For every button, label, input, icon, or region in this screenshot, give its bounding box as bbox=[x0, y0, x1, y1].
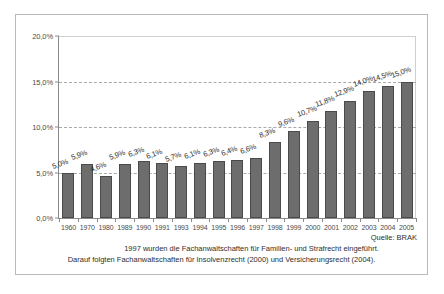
source-label: Quelle: BRAK bbox=[26, 233, 417, 244]
x-tick-label: 1980 bbox=[98, 224, 113, 231]
bar[interactable] bbox=[62, 173, 74, 219]
bar-slot: 14,0%2003 bbox=[360, 36, 379, 218]
x-tick-mark bbox=[397, 218, 398, 222]
bar-slot: 5,9%1989 bbox=[115, 36, 134, 218]
x-tick-mark bbox=[303, 218, 304, 222]
x-tick-mark bbox=[360, 218, 361, 222]
bar[interactable] bbox=[382, 86, 394, 218]
x-tick-label: 1993 bbox=[174, 224, 189, 231]
x-tick-label: 1999 bbox=[286, 224, 301, 231]
bar[interactable] bbox=[138, 161, 150, 218]
bar[interactable] bbox=[231, 160, 243, 218]
x-tick-mark bbox=[115, 218, 116, 222]
bar-slot: 6,3%1995 bbox=[209, 36, 228, 218]
x-tick-label: 1994 bbox=[192, 224, 207, 231]
x-tick-label: 1989 bbox=[117, 224, 132, 231]
bar[interactable] bbox=[325, 111, 337, 218]
x-tick-label: 1960 bbox=[61, 224, 76, 231]
bar-slot: 14,5%2004 bbox=[378, 36, 397, 218]
x-tick-mark bbox=[153, 218, 154, 222]
y-tick-label: 20,0% bbox=[32, 32, 53, 41]
x-tick-mark bbox=[134, 218, 135, 222]
bar-slot: 9,6%1999 bbox=[284, 36, 303, 218]
y-tick-label: 10,0% bbox=[32, 123, 53, 132]
x-tick-mark bbox=[266, 218, 267, 222]
bar[interactable] bbox=[194, 163, 206, 219]
footnote-line-2: Darauf folgten Fachanwaltschaften für In… bbox=[26, 255, 417, 266]
bar-series: 5,0%19605,9%19704,6%19805,9%19896,3%1990… bbox=[59, 36, 416, 218]
x-tick-label: 2005 bbox=[399, 224, 414, 231]
bar[interactable] bbox=[156, 163, 168, 219]
x-tick-label: 2001 bbox=[324, 224, 339, 231]
x-tick-label: 1997 bbox=[249, 224, 264, 231]
x-tick-mark bbox=[322, 218, 323, 222]
bar-slot: 6,1%1991 bbox=[153, 36, 172, 218]
bar[interactable] bbox=[288, 131, 300, 218]
x-tick-label: 1995 bbox=[211, 224, 226, 231]
bar-slot: 10,7%2000 bbox=[303, 36, 322, 218]
footer-notes: Quelle: BRAK 1997 wurden die Fachanwalts… bbox=[26, 233, 417, 266]
x-tick-label: 2000 bbox=[305, 224, 320, 231]
bar[interactable] bbox=[401, 82, 413, 219]
bar[interactable] bbox=[213, 161, 225, 218]
x-tick-label: 1996 bbox=[230, 224, 245, 231]
x-tick-mark bbox=[228, 218, 229, 222]
chart-figure: 20,0%15,0%10,0%5,0%0,0% 5,0%19605,9%1970… bbox=[15, 14, 428, 275]
x-tick-mark bbox=[416, 218, 417, 222]
x-tick-mark bbox=[78, 218, 79, 222]
x-tick-mark bbox=[59, 218, 60, 222]
x-tick-mark bbox=[191, 218, 192, 222]
x-tick-mark bbox=[341, 218, 342, 222]
bar[interactable] bbox=[269, 142, 281, 218]
plot-area: 20,0%15,0%10,0%5,0%0,0% 5,0%19605,9%1970… bbox=[58, 36, 416, 219]
y-tick-label: 5,0% bbox=[36, 168, 53, 177]
x-tick-mark bbox=[284, 218, 285, 222]
bar[interactable] bbox=[363, 91, 375, 218]
x-tick-mark bbox=[378, 218, 379, 222]
bar-slot: 5,9%1970 bbox=[78, 36, 97, 218]
bar-slot: 5,0%1960 bbox=[59, 36, 78, 218]
bar-slot: 12,9%2002 bbox=[341, 36, 360, 218]
bar[interactable] bbox=[250, 158, 262, 218]
bar-slot: 6,4%1996 bbox=[228, 36, 247, 218]
bar-slot: 6,6%1997 bbox=[247, 36, 266, 218]
x-tick-mark bbox=[247, 218, 248, 222]
y-tick-label: 0,0% bbox=[36, 214, 53, 223]
bar[interactable] bbox=[175, 166, 187, 218]
y-tick-label: 15,0% bbox=[32, 77, 53, 86]
bar-slot: 6,1%1994 bbox=[191, 36, 210, 218]
x-tick-label: 1991 bbox=[155, 224, 170, 231]
x-tick-label: 1998 bbox=[268, 224, 283, 231]
bar-slot: 6,3%1990 bbox=[134, 36, 153, 218]
x-tick-label: 2002 bbox=[343, 224, 358, 231]
bar[interactable] bbox=[119, 164, 131, 218]
bar-value-label: 5,0% bbox=[51, 156, 69, 170]
bar[interactable] bbox=[307, 121, 319, 218]
bar-slot: 15,0%2005 bbox=[397, 36, 416, 218]
footnote-line-1: 1997 wurden die Fachanwaltschaften für F… bbox=[26, 244, 417, 255]
bar-slot: 5,7%1993 bbox=[172, 36, 191, 218]
x-tick-label: 1970 bbox=[80, 224, 95, 231]
x-tick-mark bbox=[172, 218, 173, 222]
x-tick-label: 1990 bbox=[136, 224, 151, 231]
bar[interactable] bbox=[344, 101, 356, 218]
bar-slot: 11,8%2001 bbox=[322, 36, 341, 218]
x-tick-mark bbox=[97, 218, 98, 222]
x-tick-mark bbox=[209, 218, 210, 222]
x-tick-label: 2004 bbox=[380, 224, 395, 231]
bar[interactable] bbox=[100, 176, 112, 218]
bar-slot: 4,6%1980 bbox=[97, 36, 116, 218]
x-tick-label: 2003 bbox=[362, 224, 377, 231]
